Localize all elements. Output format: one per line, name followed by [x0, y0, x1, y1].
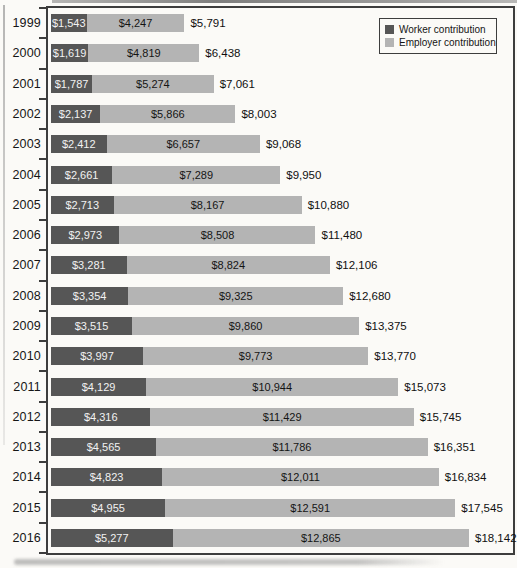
- worker-segment: $2,137: [51, 105, 100, 123]
- stacked-bar: $3,515$9,860$13,375: [51, 317, 407, 335]
- scan-artifact-top: [52, 0, 517, 3]
- employer-segment: $4,247: [87, 14, 185, 32]
- worker-segment: $2,713: [51, 196, 114, 214]
- total-label: $17,545: [461, 502, 503, 514]
- stacked-bar: $4,955$12,591$17,545: [51, 499, 503, 517]
- year-label: 2013: [5, 440, 41, 454]
- legend-label-worker: Worker contribution: [399, 24, 486, 35]
- axis-tick: [39, 401, 48, 403]
- worker-segment: $4,316: [51, 408, 150, 426]
- stacked-bar: $4,129$10,944$15,073: [51, 378, 446, 396]
- employer-segment: $10,944: [146, 378, 398, 396]
- stacked-bar: $3,997$9,773$13,770: [51, 347, 416, 365]
- legend-item-worker: Worker contribution: [385, 24, 491, 35]
- chart-row: 2006$2,973$8,508$11,480: [48, 220, 513, 250]
- chart-row: 2003$2,412$6,657$9,068: [48, 129, 513, 159]
- chart-row: 2014$4,823$12,011$16,834: [48, 462, 513, 492]
- employer-segment: $12,011: [162, 468, 439, 486]
- scan-artifact-bottom: [14, 559, 444, 565]
- axis-tick: [39, 68, 48, 70]
- year-label: 2007: [5, 258, 41, 272]
- employer-segment: $7,289: [112, 166, 280, 184]
- axis-tick: [39, 7, 48, 9]
- legend-label-employer: Employer contribution: [399, 37, 496, 48]
- employer-segment: $12,865: [173, 529, 469, 547]
- worker-segment: $1,619: [51, 44, 88, 62]
- worker-segment: $4,565: [51, 438, 156, 456]
- year-label: 2003: [5, 137, 41, 151]
- total-label: $9,068: [266, 138, 301, 150]
- total-label: $16,834: [445, 471, 487, 483]
- plot-area: 1999$1,543$4,247$5,7912000$1,619$4,819$6…: [46, 6, 515, 555]
- total-label: $5,791: [190, 17, 225, 29]
- year-label: 2014: [5, 470, 41, 484]
- year-label: 2008: [5, 289, 41, 303]
- year-label: 2010: [5, 349, 41, 363]
- year-label: 2002: [5, 107, 41, 121]
- stacked-bar: $4,316$11,429$15,745: [51, 408, 461, 426]
- worker-segment: $4,129: [51, 378, 146, 396]
- total-label: $9,950: [286, 169, 321, 181]
- stacked-bar: $2,713$8,167$10,880: [51, 196, 349, 214]
- employer-segment: $5,274: [92, 75, 214, 93]
- total-label: $6,438: [205, 47, 240, 59]
- total-label: $12,106: [336, 259, 378, 271]
- chart-row: 2007$3,281$8,824$12,106: [48, 250, 513, 280]
- chart-row: 2011$4,129$10,944$15,073: [48, 371, 513, 401]
- stacked-bar: $2,661$7,289$9,950: [51, 166, 321, 184]
- employer-segment: $9,860: [132, 317, 359, 335]
- employer-segment: $9,325: [128, 287, 343, 305]
- chart-row: 2004$2,661$7,289$9,950: [48, 159, 513, 189]
- worker-swatch-icon: [385, 25, 394, 34]
- axis-tick: [39, 340, 48, 342]
- worker-segment: $4,823: [51, 468, 162, 486]
- total-label: $11,480: [321, 229, 362, 241]
- legend-item-employer: Employer contribution: [385, 37, 491, 48]
- stacked-bar: $2,973$8,508$11,480: [51, 226, 362, 244]
- total-label: $16,351: [434, 441, 476, 453]
- axis-tick: [39, 128, 48, 130]
- year-label: 2001: [5, 77, 41, 91]
- axis-tick: [39, 370, 48, 372]
- year-label: 2009: [5, 319, 41, 333]
- employer-segment: $9,773: [143, 347, 368, 365]
- year-label: 2004: [5, 168, 41, 182]
- worker-segment: $4,955: [51, 499, 165, 517]
- worker-segment: $3,354: [51, 287, 128, 305]
- stacked-bar: $4,565$11,786$16,351: [51, 438, 475, 456]
- worker-segment: $1,787: [51, 75, 92, 93]
- worker-segment: $1,543: [51, 14, 87, 32]
- chart-row: 2005$2,713$8,167$10,880: [48, 190, 513, 220]
- chart-row: 2002$2,137$5,866$8,003: [48, 99, 513, 129]
- employer-segment: $11,786: [156, 438, 428, 456]
- axis-tick: [39, 461, 48, 463]
- stacked-bar: $3,281$8,824$12,106: [51, 256, 378, 274]
- stacked-bar: $4,823$12,011$16,834: [51, 468, 486, 486]
- stacked-bar: $1,787$5,274$7,061: [51, 75, 255, 93]
- axis-tick: [39, 37, 48, 39]
- legend: Worker contribution Employer contributio…: [379, 18, 497, 54]
- axis-tick: [39, 280, 48, 282]
- chart-row: 2016$5,277$12,865$18,142: [48, 523, 513, 553]
- employer-segment: $6,657: [107, 135, 260, 153]
- axis-tick: [39, 249, 48, 251]
- year-label: 2011: [5, 380, 41, 394]
- year-label: 2016: [5, 531, 41, 545]
- axis-tick: [39, 189, 48, 191]
- year-label: 2005: [5, 198, 41, 212]
- total-label: $8,003: [241, 108, 276, 120]
- employer-swatch-icon: [385, 38, 394, 47]
- year-label: 2006: [5, 228, 41, 242]
- year-label: 2012: [5, 410, 41, 424]
- employer-segment: $12,591: [165, 499, 455, 517]
- total-label: $13,770: [374, 350, 416, 362]
- worker-segment: $3,515: [51, 317, 132, 335]
- worker-segment: $3,997: [51, 347, 143, 365]
- year-label: 2000: [5, 46, 41, 60]
- total-label: $15,745: [420, 411, 462, 423]
- year-label: 2015: [5, 501, 41, 515]
- chart-rows: 1999$1,543$4,247$5,7912000$1,619$4,819$6…: [48, 8, 513, 553]
- axis-tick: [39, 310, 48, 312]
- chart-page: 1999$1,543$4,247$5,7912000$1,619$4,819$6…: [0, 0, 517, 568]
- chart-row: 2012$4,316$11,429$15,745: [48, 402, 513, 432]
